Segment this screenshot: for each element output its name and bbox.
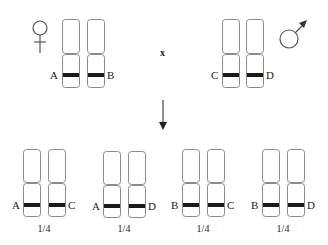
allele-label: C: [227, 199, 234, 211]
offspring-pair: A C 1/4: [12, 150, 75, 235]
ratio-label: 1/4: [118, 223, 131, 234]
ratio-label: 1/4: [197, 223, 210, 234]
male-symbol-icon: [280, 20, 307, 48]
allele-label: A: [92, 200, 100, 212]
chromosome: [63, 20, 80, 88]
chromosome: [223, 20, 240, 88]
allele-label: B: [171, 199, 178, 211]
offspring-pair: B C 1/4: [171, 150, 234, 235]
offspring-pair: A D 1/4: [92, 152, 156, 235]
chromosome: [88, 20, 105, 88]
cross-symbol: x: [160, 47, 165, 58]
allele-label: D: [266, 69, 274, 81]
female-symbol-icon: [33, 21, 47, 53]
allele-label: D: [307, 199, 315, 211]
genetic-cross-diagram: A B x C D A C: [0, 0, 328, 245]
allele-label: B: [251, 199, 258, 211]
allele-label: B: [107, 69, 114, 81]
allele-label: C: [68, 199, 75, 211]
male-chromosome-pair: C D: [211, 20, 274, 88]
allele-label: C: [211, 69, 218, 81]
allele-label: D: [148, 200, 156, 212]
allele-label: A: [12, 199, 20, 211]
offspring-pair: B D 1/4: [251, 150, 315, 235]
female-chromosome-pair: A B: [50, 20, 114, 88]
chromosome: [247, 20, 264, 88]
ratio-label: 1/4: [38, 223, 51, 234]
ratio-label: 1/4: [277, 223, 290, 234]
down-arrow-icon: [159, 100, 167, 130]
allele-label: A: [50, 69, 58, 81]
